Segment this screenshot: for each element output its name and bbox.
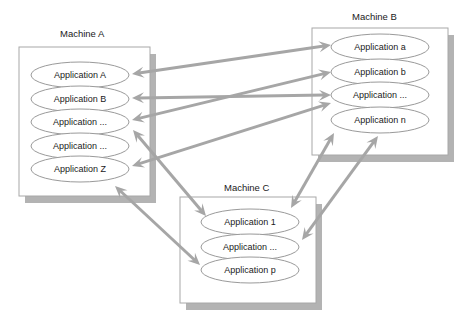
bidirectional-arrow <box>132 41 331 77</box>
application-label: Application A <box>54 70 106 80</box>
application-node: Application ... <box>201 234 299 260</box>
application-label: Application ... <box>353 90 407 100</box>
application-node: Application ... <box>31 133 129 159</box>
arrow-shaft <box>139 105 325 164</box>
machine-title: Machine C <box>224 182 270 193</box>
application-node: Application ... <box>331 82 429 108</box>
application-label: Application ... <box>53 141 107 151</box>
application-label: Application b <box>354 67 406 77</box>
application-label: Application B <box>54 94 107 104</box>
application-node: Application B <box>31 86 129 112</box>
application-node: Application b <box>331 59 429 85</box>
application-node: Application A <box>31 62 129 88</box>
application-node: Application n <box>331 107 429 133</box>
application-label: Application 1 <box>224 217 276 227</box>
application-node: Application ... <box>31 109 129 135</box>
application-label: Application a <box>354 42 406 52</box>
application-node: Application 1 <box>201 209 299 235</box>
application-node: Application p <box>201 257 299 283</box>
application-node: Application Z <box>31 156 129 182</box>
arrow-shaft <box>139 46 324 73</box>
application-label: Application Z <box>54 164 107 174</box>
distributed-applications-diagram: Application AApplication BApplication ..… <box>0 0 472 325</box>
machine-title: Machine B <box>352 11 397 22</box>
application-label: Application p <box>224 265 276 275</box>
application-label: Application ... <box>223 242 277 252</box>
application-node: Application a <box>331 34 429 60</box>
machine-title: Machine A <box>60 28 105 39</box>
application-label: Application ... <box>53 117 107 127</box>
application-label: Application n <box>354 115 406 125</box>
